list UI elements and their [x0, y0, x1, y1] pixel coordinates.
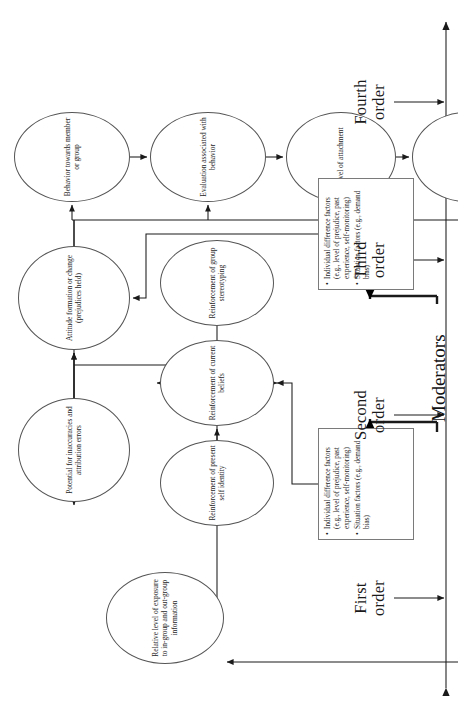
moderator-item: Individual difference factors (e.g., lev…: [324, 184, 352, 285]
edge-mod-lower-to-n3: [277, 383, 318, 484]
node-potential-inaccuracies[interactable]: Potential for inaccuracies and attributi…: [18, 398, 130, 502]
node-label: Potential for inaccuracies and attributi…: [65, 403, 84, 497]
node-label: Relative level of exposure to in-group a…: [151, 577, 179, 659]
moderator-item: Individual difference factors (e.g., lev…: [324, 434, 352, 535]
node-reinforce-current-beliefs[interactable]: Reinforcement of current beliefs: [160, 340, 274, 426]
figure-page: Relative level of exposure to in-group a…: [0, 0, 458, 722]
stage-label-first: First order: [352, 546, 389, 650]
stage-label-second: Second order: [352, 363, 389, 467]
node-label: Evaluation associated with behavior: [199, 117, 218, 197]
moderators-label: Moderators: [428, 334, 450, 422]
node-loyalty[interactable]: Loyalty: [412, 112, 458, 202]
node-label: Behavior towards member or group: [63, 117, 82, 197]
diagram-canvas: Relative level of exposure to in-group a…: [0, 0, 458, 722]
node-behavior-towards-member[interactable]: Behavior towards member or group: [14, 112, 130, 202]
node-reinforce-group-stereotyping[interactable]: Reinforcement of group stereotyping: [160, 240, 274, 326]
node-label: Reinforcement of present self identity: [208, 445, 227, 521]
node-label: Reinforcement of current beliefs: [208, 345, 227, 421]
node-reinforce-self-identity[interactable]: Reinforcement of present self identity: [160, 440, 274, 526]
stage-label-third: Third order: [352, 208, 389, 312]
stage-label-fourth: Fourth order: [352, 50, 389, 154]
node-evaluation-associated[interactable]: Evaluation associated with behavior: [150, 112, 266, 202]
node-relative-exposure[interactable]: Relative level of exposure to in-group a…: [106, 572, 224, 664]
node-label: Reinforcement of group stereotyping: [208, 245, 227, 321]
node-attitude-formation[interactable]: Attitude formation or change (prejudices…: [18, 246, 130, 350]
node-label: Attitude formation or change (prejudices…: [65, 251, 84, 345]
